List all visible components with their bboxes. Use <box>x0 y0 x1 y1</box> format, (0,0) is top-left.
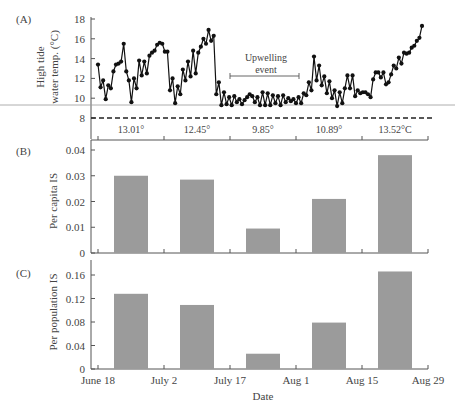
bar <box>180 180 214 253</box>
y-tick-label: 0.02 <box>66 196 85 208</box>
panel-a-ylabel-2: water temp. (°C) <box>48 30 61 104</box>
y-tick-label: 0.01 <box>66 221 85 233</box>
bar <box>312 323 346 369</box>
panel-c-label: (C) <box>16 267 31 280</box>
bar <box>246 229 280 253</box>
y-tick-label: 0.04 <box>66 144 86 156</box>
panel-a: (A) High tide water temp. (°C) 810121416… <box>0 13 455 140</box>
bar <box>246 354 280 369</box>
y-tick-label: 0.08 <box>66 316 86 328</box>
y-tick-label: 10 <box>74 92 86 104</box>
y-tick-label: 18 <box>74 13 86 25</box>
x-tick-label: Aug 29 <box>412 374 445 386</box>
period-mean-label: 13.52°C <box>378 124 411 135</box>
upwelling-label-2: event <box>255 64 277 75</box>
y-tick-label: 0.16 <box>66 269 86 281</box>
bar <box>378 155 412 253</box>
panel-b-bars: 00.010.020.030.04 <box>66 144 428 259</box>
panel-c: (C) Per population IS 00.040.080.120.16J… <box>16 260 445 402</box>
bar <box>180 305 214 369</box>
x-tick-label: July 2 <box>151 374 178 386</box>
panel-b: (B) Per capita IS 00.010.020.030.04 <box>16 140 428 259</box>
figure: (A) High tide water temp. (°C) 810121416… <box>0 0 455 409</box>
period-mean-label: 9.85° <box>252 124 274 135</box>
y-tick-label: 0.03 <box>66 170 86 182</box>
y-tick-label: 8 <box>80 112 86 124</box>
y-tick-label: 12 <box>74 72 85 84</box>
bar <box>114 176 148 253</box>
panel-a-y-ticks: 81012141618 <box>74 13 95 124</box>
panel-c-ylabel: Per population IS <box>47 274 59 351</box>
upwelling-label-1: Upwelling <box>245 52 287 63</box>
y-tick-label: 0 <box>80 247 86 259</box>
panel-b-label: (B) <box>16 145 31 158</box>
period-mean-label: 12.45° <box>184 124 211 135</box>
y-tick-label: 0.12 <box>66 293 85 305</box>
panel-a-label: (A) <box>16 13 32 26</box>
panel-c-bars: 00.040.080.120.16June 18July 2July 17Aug… <box>66 269 445 386</box>
period-means: 13.01°12.45°9.85°10.89°13.52°C <box>98 124 428 140</box>
y-tick-label: 16 <box>74 33 86 45</box>
x-tick-label: Aug 1 <box>282 374 309 386</box>
period-mean-label: 13.01° <box>118 124 145 135</box>
x-axis-label: Date <box>253 390 274 402</box>
x-tick-label: July 17 <box>214 374 247 386</box>
panel-a-ylabel-1: High tide <box>34 46 46 87</box>
period-mean-label: 10.89° <box>316 124 343 135</box>
bar <box>378 271 412 369</box>
y-tick-label: 0.04 <box>66 340 86 352</box>
x-tick-label: Aug 15 <box>346 374 379 386</box>
y-tick-label: 14 <box>74 53 86 65</box>
panel-b-ylabel: Per capita IS <box>47 173 59 229</box>
upwelling-annotation: Upwelling event <box>230 52 299 79</box>
bar <box>312 199 346 253</box>
bar <box>114 294 148 369</box>
x-tick-label: June 18 <box>81 374 115 386</box>
